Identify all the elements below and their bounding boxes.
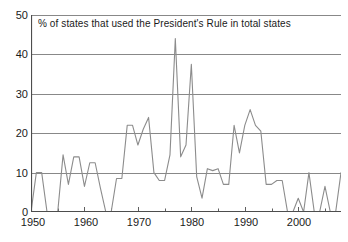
x-tick-label-1970: 1970 [127,216,151,228]
chart-figure: 50 40 30 20 10 0 % of states that used t… [0,0,348,242]
x-tick-label-2000: 2000 [287,216,311,228]
data-line-series [31,39,341,212]
x-tick-label-1950: 1950 [21,216,45,228]
x-tick-label-1980: 1980 [180,216,204,228]
chart-svg [31,15,341,212]
x-tick-label-1960: 1960 [74,216,98,228]
y-tick-label-50: 50 [16,10,28,21]
y-tick-label-30: 30 [16,89,28,100]
y-tick-label-10: 10 [16,168,28,179]
x-axis-labels: 1950 1960 1970 1980 1990 2000 [0,216,348,236]
y-axis-labels: 50 40 30 20 10 0 [0,0,28,242]
y-tick-label-20: 20 [16,128,28,139]
gridlines [31,16,341,174]
x-tick-label-1990: 1990 [234,216,258,228]
plot-area [31,15,341,212]
y-tick-label-40: 40 [16,49,28,60]
chart-title: % of states that used the President's Ru… [38,18,291,29]
